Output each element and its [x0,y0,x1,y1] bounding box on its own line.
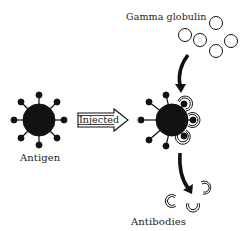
arrow-down-icon [180,153,193,194]
immune-diagram [0,0,251,231]
antibodies-label: Antibodies [131,216,186,227]
arrow-down-icon [175,55,188,93]
antigen-right-icon [138,92,196,149]
injected-label: Injected [79,114,119,125]
antigen-label: Antigen [20,152,60,163]
gamma-globulin-label: Gamma globulin [126,11,207,22]
antigen-left-icon [11,92,67,148]
gamma-globulin-icon [179,17,238,58]
